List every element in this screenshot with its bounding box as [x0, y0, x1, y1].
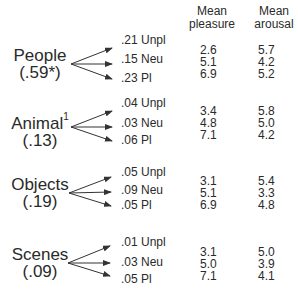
branch-label: .23 Pl [121, 72, 152, 85]
pleasure-value: 6.9 [200, 68, 217, 80]
branch-label: .01 Unpl [121, 236, 166, 249]
branch-label: .15 Neu [121, 53, 163, 66]
category-name: Animal [11, 114, 63, 133]
category-proportion: (.19) [0, 193, 80, 210]
arousal-value: 4.2 [258, 129, 275, 141]
category-people: People (.59*) [0, 47, 80, 81]
arousal-value: 5.2 [258, 68, 275, 80]
category-animal: Animal1 (.13) [0, 110, 80, 149]
pleasure-value: 6.9 [200, 199, 217, 211]
branch-label: .05 Pl [121, 273, 152, 286]
category-scenes: Scenes (.09) [0, 246, 80, 280]
branch-label: .04 Unpl [121, 97, 166, 110]
branch-label: .03 Neu [121, 117, 163, 130]
category-proportion: (.13) [0, 132, 80, 149]
branch-label: .09 Neu [121, 184, 163, 197]
category-proportion: (.09) [0, 263, 80, 280]
arousal-value: 4.1 [258, 270, 275, 282]
branch-label: .05 Unpl [121, 166, 166, 179]
pleasure-value: 7.1 [200, 129, 217, 141]
arousal-value: 4.8 [258, 199, 275, 211]
branch-label: .05 Pl [121, 199, 152, 212]
branch-label: .06 Pl [121, 134, 152, 147]
footnote-marker: 1 [63, 111, 69, 122]
category-proportion: (.59*) [0, 64, 80, 81]
branch-label: .21 Unpl [121, 34, 166, 47]
branch-label: .03 Neu [121, 256, 163, 269]
category-objects: Objects (.19) [0, 176, 80, 210]
pleasure-value: 7.1 [200, 270, 217, 282]
